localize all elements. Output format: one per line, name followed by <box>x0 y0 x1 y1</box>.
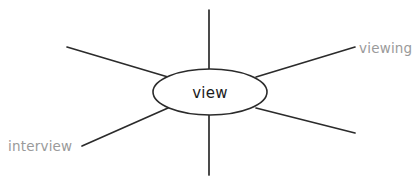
spoke-lower-left-line <box>82 108 168 146</box>
spoke-upper-left-line <box>67 47 168 77</box>
label-viewing: viewing <box>359 40 412 56</box>
center-node-label: view <box>192 84 228 102</box>
spoke-lower-right-line <box>256 108 355 133</box>
mind-map-diagram: view viewing interview <box>0 0 420 181</box>
diagram-canvas: view viewing interview <box>0 0 420 181</box>
spoke-upper-right-line <box>256 47 355 77</box>
label-interview: interview <box>8 138 72 154</box>
